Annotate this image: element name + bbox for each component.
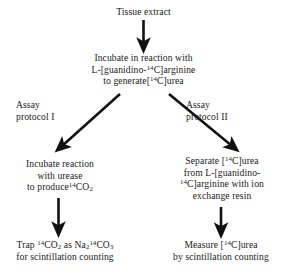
node-incubate-reaction: Incubate in reaction withL-[guanidino-14…: [0, 52, 287, 87]
text-line: Measure [14C]urea: [155, 239, 287, 251]
node-measure-urea: Measure [14C]ureaby scintillation counti…: [155, 239, 287, 262]
label-assay-protocol-1: Assayprotocol I: [16, 99, 104, 122]
text-line: for scintillation counting: [0, 251, 130, 263]
node-urease-incubation: Incubate reactionwith ureaseto produce14…: [0, 158, 120, 193]
text-line: L-[guanidino-14C]arginine: [0, 64, 287, 76]
node-trap-carbonate: Trap 14CO2 as Na214CO3for scintillation …: [0, 239, 130, 262]
text-line: Separate [14C]urea: [158, 155, 286, 167]
text-line: to produce14CO2: [0, 181, 120, 193]
text-line: from L-[guanidino-: [158, 167, 286, 179]
text-line: exchange resin: [158, 190, 286, 202]
text-line: to generate[14C]urea: [0, 75, 287, 87]
text-line: protocol I: [16, 111, 104, 123]
text-line: Incubate reaction: [0, 158, 120, 170]
text-line: Tissue extract: [0, 6, 287, 18]
text-line: protocol II: [186, 111, 276, 123]
text-line: Assay: [16, 99, 104, 111]
arrow-layer: [0, 0, 287, 277]
label-assay-protocol-2: Assayprotocol II: [186, 99, 276, 122]
text-line: Incubate in reaction with: [0, 52, 287, 64]
text-line: Trap 14CO2 as Na214CO3: [0, 239, 130, 251]
text-line: 14C]arginine with ion: [158, 178, 286, 190]
node-ion-exchange-separation: Separate [14C]ureafrom L-[guanidino-14C]…: [158, 155, 286, 201]
flowchart-canvas: Tissue extract Incubate in reaction with…: [0, 0, 287, 277]
node-tissue-extract: Tissue extract: [0, 6, 287, 18]
text-line: by scintillation counting: [155, 251, 287, 263]
text-line: with urease: [0, 170, 120, 182]
text-line: Assay: [186, 99, 276, 111]
